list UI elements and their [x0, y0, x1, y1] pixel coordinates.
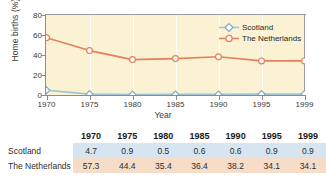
table-cell-the-netherlands-1975: 44.4 — [109, 158, 145, 173]
y-tick-80: 80 — [22, 11, 42, 20]
table-row: The Netherlands57.344.435.436.438.234.13… — [0, 158, 326, 173]
table-col-header-1990: 1990 — [218, 126, 254, 143]
table-cell-scotland-1995: 0.9 — [254, 143, 290, 158]
y-tickmark-20 — [41, 75, 46, 76]
table-cell-the-netherlands-1970: 57.3 — [73, 158, 109, 173]
y-tick-60: 60 — [22, 31, 42, 40]
x-tick-1970: 1970 — [38, 100, 56, 109]
legend-marker-circle-icon — [218, 33, 240, 44]
table-col-header-1985: 1985 — [181, 126, 217, 143]
datapoint-the-netherlands-1980[interactable] — [130, 57, 136, 63]
table-cell-the-netherlands-1999: 34.1 — [290, 158, 326, 173]
datapoint-scotland-1990[interactable] — [215, 91, 222, 95]
datapoint-the-netherlands-1975[interactable] — [87, 48, 93, 54]
table-col-header-1975: 1975 — [109, 126, 145, 143]
table-cell-scotland-1975: 0.9 — [109, 143, 145, 158]
table-col-header-1980: 1980 — [145, 126, 181, 143]
table-row-label-the-netherlands: The Netherlands — [0, 158, 73, 173]
data-table-container: 1970197519801985199019951999 Scotland4.7… — [0, 126, 326, 187]
x-tick-1995: 1995 — [253, 100, 271, 109]
datapoint-the-netherlands-1999[interactable] — [302, 58, 305, 64]
x-tick-1999: 1999 — [296, 100, 314, 109]
datapoint-the-netherlands-1970[interactable] — [46, 35, 49, 41]
table-cell-scotland-1999: 0.9 — [290, 143, 326, 158]
table-header-row: 1970197519801985199019951999 — [0, 126, 326, 143]
table-cell-the-netherlands-1985: 36.4 — [181, 158, 217, 173]
y-tickmark-80 — [41, 15, 46, 16]
table-cell-scotland-1970: 4.7 — [73, 143, 109, 158]
legend-label-scotland: Scotland — [242, 22, 273, 33]
table-row: Scotland4.70.90.50.60.60.90.9 — [0, 143, 326, 158]
legend-item-netherlands[interactable]: The Netherlands — [218, 33, 301, 44]
y-tickmark-0 — [41, 95, 46, 96]
datapoint-the-netherlands-1990[interactable] — [216, 54, 222, 60]
y-tickmark-60 — [41, 35, 46, 36]
datapoint-scotland-1995[interactable] — [258, 91, 265, 95]
legend-item-scotland[interactable]: Scotland — [218, 22, 301, 33]
y-tickmark-40 — [41, 55, 46, 56]
y-axis-label: Home births (%) — [10, 0, 20, 75]
y-axis-tick-labels: 020406080 — [22, 13, 42, 97]
table-col-header-1995: 1995 — [254, 126, 290, 143]
table-col-header-1999: 1999 — [290, 126, 326, 143]
x-axis-label: Year — [0, 110, 326, 120]
table-cell-the-netherlands-1990: 38.2 — [218, 158, 254, 173]
y-tick-20: 20 — [22, 71, 42, 80]
datapoint-the-netherlands-1985[interactable] — [173, 56, 179, 62]
table-cell-scotland-1990: 0.6 — [218, 143, 254, 158]
y-tick-40: 40 — [22, 51, 42, 60]
table-cell-the-netherlands-1980: 35.4 — [145, 158, 181, 173]
table-row-label-scotland: Scotland — [0, 143, 73, 158]
chart-figure: Home births (%) 020406080 Scotland The N… — [0, 0, 326, 122]
datapoint-scotland-1999[interactable] — [301, 91, 305, 95]
x-tick-1980: 1980 — [124, 100, 142, 109]
datapoint-the-netherlands-1995[interactable] — [259, 58, 265, 64]
table-col-header-1970: 1970 — [73, 126, 109, 143]
table-body: Scotland4.70.90.50.60.60.90.9The Netherl… — [0, 143, 326, 173]
legend-marker-diamond-icon — [218, 22, 240, 33]
chart-legend: Scotland The Netherlands — [218, 22, 301, 44]
x-tick-1975: 1975 — [81, 100, 99, 109]
table-cell-scotland-1985: 0.6 — [181, 143, 217, 158]
table-corner-cell — [0, 126, 73, 143]
datapoint-scotland-1975[interactable] — [86, 91, 93, 95]
datapoint-scotland-1970[interactable] — [46, 87, 50, 94]
x-tick-1985: 1985 — [167, 100, 185, 109]
x-tick-1990: 1990 — [210, 100, 228, 109]
table-cell-the-netherlands-1995: 34.1 — [254, 158, 290, 173]
datapoint-scotland-1985[interactable] — [172, 91, 179, 95]
y-tick-0: 0 — [22, 91, 42, 100]
data-table: 1970197519801985199019951999 Scotland4.7… — [0, 126, 326, 173]
datapoint-scotland-1980[interactable] — [129, 91, 136, 95]
table-cell-scotland-1980: 0.5 — [145, 143, 181, 158]
legend-label-netherlands: The Netherlands — [242, 33, 301, 44]
